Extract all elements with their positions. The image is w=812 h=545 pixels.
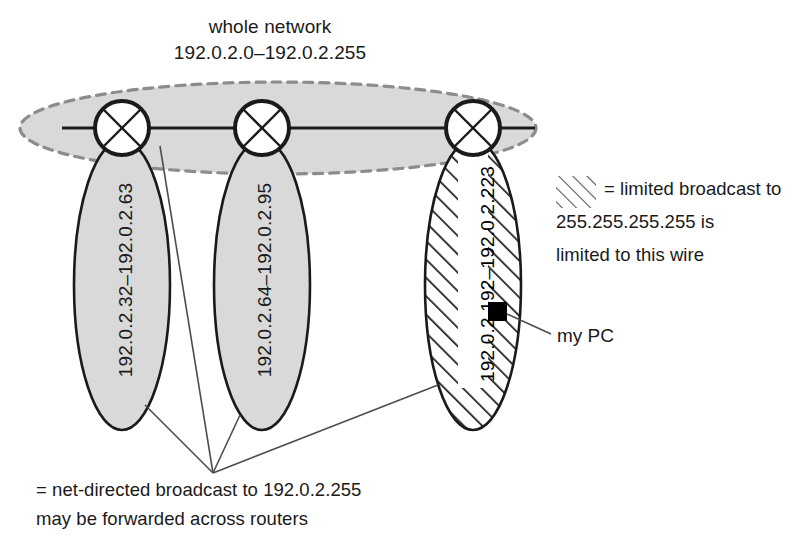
legend-limited-broadcast-line1: = limited broadcast to (604, 178, 781, 200)
legend-net-directed-line2: may be forwarded across routers (36, 508, 308, 530)
legend-limited-broadcast-line3: limited to this wire (556, 244, 704, 266)
legend-limited-broadcast-line2: 255.255.255.255 is (556, 211, 714, 233)
leader-from-subnet-a (145, 405, 213, 473)
hatch-swatch-box (556, 176, 596, 208)
subnet-b-label: 192.0.2.64–192.0.2.95 (254, 165, 276, 395)
diagonal-hatch-swatch (556, 176, 596, 208)
legend-net-directed-line1: = net-directed broadcast to 192.0.2.255 (36, 479, 361, 501)
subnet-a-label: 192.0.2.32–192.0.2.63 (115, 165, 137, 395)
subnet-c-label: 192.0.2.192–192.0.2.223 (477, 140, 499, 408)
page-title: whole network (0, 16, 540, 38)
page-title-range: 192.0.2.0–192.0.2.255 (0, 42, 540, 64)
diagram-canvas: whole network 192.0.2.0–192.0.2.255 192.… (0, 0, 812, 545)
router-1[interactable] (95, 101, 149, 155)
mypc-label: my PC (557, 325, 614, 347)
router-2[interactable] (235, 101, 289, 155)
